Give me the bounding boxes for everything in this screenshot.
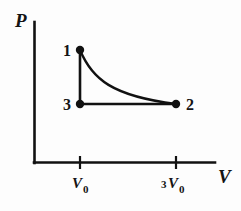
state-point-3-label: 3 xyxy=(63,96,71,113)
state-point-3-dot xyxy=(76,100,84,108)
tick-label-3v0-subscript: 0 xyxy=(179,183,185,195)
state-point-1-dot xyxy=(76,46,84,54)
thermodynamic-cycle-paths xyxy=(80,50,176,104)
state-point-2-label: 2 xyxy=(186,96,194,113)
tick-label-v0-subscript: 0 xyxy=(83,183,89,195)
tick-label-3v0: 3 V 0 xyxy=(161,175,185,195)
process-curve-1-to-2 xyxy=(80,50,176,104)
x-axis-label-volume: V xyxy=(218,166,232,187)
tick-label-v0: V 0 xyxy=(72,175,89,195)
tick-label-3v0-prefix: 3 xyxy=(161,178,167,190)
y-axis-label-pressure: P xyxy=(14,10,27,31)
state-point-1-label: 1 xyxy=(63,42,71,59)
pv-diagram-figure: 1 3 2 P V V 0 3 V 0 xyxy=(0,0,241,211)
state-point-2-dot xyxy=(172,100,180,108)
state-points-group xyxy=(76,46,180,108)
